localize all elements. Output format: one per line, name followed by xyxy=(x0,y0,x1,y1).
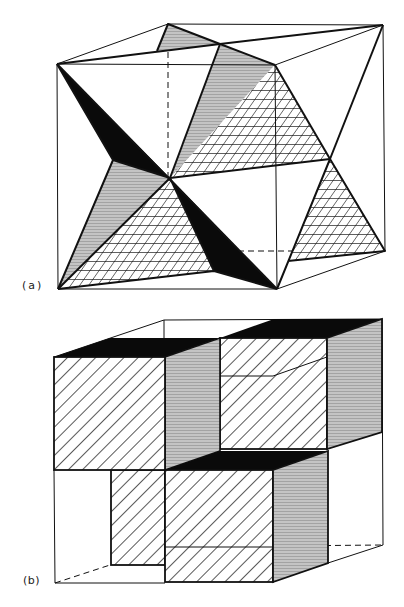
panel-label-b: (b) xyxy=(23,574,40,587)
panel-b xyxy=(54,319,383,583)
panel-a xyxy=(57,24,385,289)
crosshatch-face-right xyxy=(288,159,385,261)
subcube-lower-front-side xyxy=(273,451,328,582)
subcube-lower-back-front xyxy=(111,470,165,565)
subcube-upper-back-front xyxy=(220,338,327,449)
panel-label-a: (a) xyxy=(22,279,43,292)
subcube-upper-front-side xyxy=(165,338,220,470)
subcube-upper-back-side xyxy=(327,319,382,449)
figure-canvas xyxy=(0,0,404,607)
subcube-lower-front-front xyxy=(165,470,273,582)
subcube-upper-front-front xyxy=(54,357,165,470)
